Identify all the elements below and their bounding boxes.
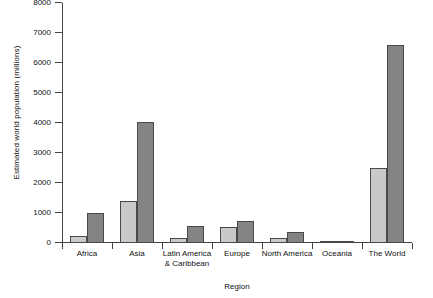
bar-pair	[312, 3, 362, 243]
x-tick-label: The World	[344, 249, 430, 259]
bar-dark[interactable]	[137, 122, 154, 244]
bar-dark[interactable]	[237, 221, 254, 243]
bar-group: Latin America& Caribbean	[162, 3, 212, 243]
bar-light[interactable]	[320, 241, 337, 243]
bar-group: Africa	[62, 3, 112, 243]
bar-light[interactable]	[370, 168, 387, 243]
bar-light[interactable]	[170, 238, 187, 243]
bar-dark[interactable]	[87, 213, 104, 243]
y-tick: 6000	[55, 62, 62, 63]
bar-pair	[212, 3, 262, 243]
y-tick-label: 6000	[33, 58, 51, 67]
bar-chart: Estimated world population (millions) 01…	[0, 0, 433, 298]
y-axis-title: Estimated world population (millions)	[12, 13, 21, 213]
bar-group: The World	[362, 3, 412, 243]
bar-dark[interactable]	[337, 241, 354, 243]
y-tick: 4000	[55, 122, 62, 123]
y-tick: 5000	[55, 92, 62, 93]
y-tick: 0	[55, 242, 62, 243]
bar-light[interactable]	[270, 238, 287, 243]
bar-light[interactable]	[70, 236, 87, 243]
plot-area: 010002000300040005000600070008000 Africa…	[62, 3, 412, 243]
y-tick: 2000	[55, 182, 62, 183]
bar-light[interactable]	[220, 227, 237, 244]
y-tick-label: 2000	[33, 178, 51, 187]
y-tick-label: 4000	[33, 118, 51, 127]
y-tick: 8000	[55, 2, 62, 3]
y-tick-label: 8000	[33, 0, 51, 7]
bar-group: Europe	[212, 3, 262, 243]
y-tick: 7000	[55, 32, 62, 33]
y-tick-label: 3000	[33, 148, 51, 157]
bar-pair	[362, 3, 412, 243]
bar-group: North America	[262, 3, 312, 243]
bar-pair	[112, 3, 162, 243]
y-tick: 3000	[55, 152, 62, 153]
y-tick: 1000	[55, 212, 62, 213]
bar-groups: AfricaAsiaLatin America& CaribbeanEurope…	[62, 3, 412, 243]
x-tick-label-line: The World	[344, 249, 430, 259]
bar-pair	[62, 3, 112, 243]
bar-group: Asia	[112, 3, 162, 243]
y-tick-label: 7000	[33, 28, 51, 37]
bar-group: Oceania	[312, 3, 362, 243]
bar-light[interactable]	[120, 201, 137, 243]
y-tick-label: 5000	[33, 88, 51, 97]
x-tick	[412, 243, 413, 249]
y-tick-label: 0	[47, 238, 51, 247]
bar-pair	[262, 3, 312, 243]
bar-dark[interactable]	[387, 45, 404, 243]
bar-pair	[162, 3, 212, 243]
bar-dark[interactable]	[287, 232, 304, 243]
bar-dark[interactable]	[187, 226, 204, 243]
x-axis-title: Region	[62, 282, 412, 291]
x-tick-label-line: & Caribbean	[144, 259, 230, 269]
y-tick-label: 1000	[33, 208, 51, 217]
